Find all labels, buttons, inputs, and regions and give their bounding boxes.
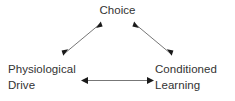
node-physiological-drive-line-1: Physiological: [8, 61, 76, 77]
edge-choice-learning-arrowhead-upper: [132, 21, 139, 28]
edge-choice-learning-arrowhead-lower: [167, 49, 174, 56]
edge-drive-choice-arrowhead-lower: [62, 49, 69, 56]
node-conditioned-learning: Conditioned Learning: [155, 61, 217, 93]
edge-choice-learning: [132, 21, 173, 55]
edge-drive-learning-arrowhead-left: [81, 77, 88, 84]
edge-choice-learning-line: [135, 24, 171, 54]
node-physiological-drive-line-2: Drive: [8, 77, 76, 93]
edge-drive-choice: [62, 21, 103, 55]
edge-drive-learning-arrowhead-right: [147, 77, 154, 84]
node-choice-line-1: Choice: [0, 2, 235, 18]
edge-drive-learning: [81, 77, 154, 84]
node-conditioned-learning-line-1: Conditioned: [155, 61, 217, 77]
node-conditioned-learning-line-2: Learning: [155, 77, 217, 93]
edge-drive-choice-arrowhead-upper: [96, 21, 103, 28]
diagram-canvas: Choice Physiological Drive Conditioned L…: [0, 0, 235, 101]
node-physiological-drive: Physiological Drive: [8, 61, 76, 93]
edge-drive-choice-line: [65, 24, 101, 54]
node-choice: Choice: [0, 2, 235, 18]
